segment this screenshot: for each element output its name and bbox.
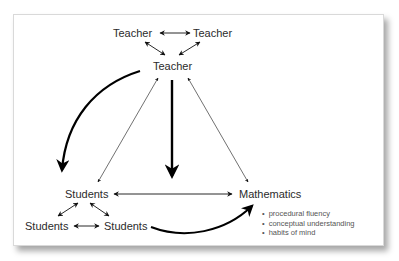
arrow-teacher-students-curved [62, 71, 140, 170]
bullet-item: habits of mind [262, 228, 355, 238]
node-teacher-right: Teacher [193, 27, 232, 39]
arrow-teacher-mathematics [188, 78, 248, 182]
arrow-students-mathematics-curved [151, 206, 252, 233]
node-students-right: Students [104, 220, 147, 232]
node-teacher-center: Teacher [153, 60, 192, 72]
bullet-item: conceptual understanding [262, 219, 355, 229]
arrow-students-studentsright [90, 203, 109, 216]
mathematics-bullet-list: procedural fluency conceptual understand… [262, 209, 355, 238]
node-students-main: Students [65, 188, 108, 200]
bullet-item: procedural fluency [262, 209, 355, 219]
arrow-teacherleft-center [145, 42, 165, 55]
arrow-teacher-students [98, 78, 158, 182]
arrow-students-studentsleft [58, 203, 78, 216]
node-teacher-left: Teacher [113, 27, 152, 39]
node-students-left: Students [25, 220, 68, 232]
node-mathematics: Mathematics [239, 188, 301, 200]
arrow-teacherright-center [179, 42, 200, 55]
